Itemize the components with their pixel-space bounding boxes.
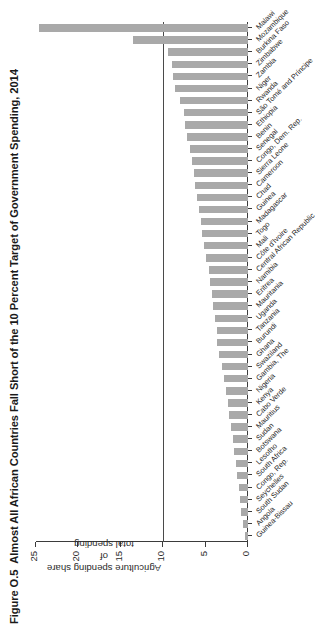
category-tick <box>248 305 252 306</box>
bar <box>229 411 248 418</box>
category-tick <box>248 366 252 367</box>
category-tick <box>248 208 252 209</box>
bar <box>168 49 248 56</box>
bar <box>175 85 248 92</box>
bar <box>206 254 248 261</box>
bar <box>239 484 248 491</box>
bar <box>215 315 248 322</box>
category-tick <box>248 148 252 149</box>
category-tick <box>248 535 252 536</box>
bar <box>237 472 248 479</box>
bar <box>233 435 248 442</box>
bar <box>173 73 248 80</box>
figure-page: Figure O.5Almost All African Countries F… <box>0 0 334 634</box>
bar <box>213 302 248 309</box>
bar <box>224 375 248 382</box>
category-tick <box>248 426 252 427</box>
category-tick <box>248 390 252 391</box>
category-tick <box>248 75 252 76</box>
bar <box>39 24 248 31</box>
category-tick <box>248 100 252 101</box>
bar <box>204 242 248 249</box>
bar <box>231 423 248 430</box>
category-tick <box>248 257 252 258</box>
category-tick <box>248 245 252 246</box>
category-tick <box>248 523 252 524</box>
value-tick-label: 0 <box>240 551 251 556</box>
bar <box>236 460 248 467</box>
category-tick <box>248 172 252 173</box>
category-tick <box>248 462 252 463</box>
category-tick <box>248 27 252 28</box>
value-axis-title-line2: total spending <box>44 538 164 550</box>
bar <box>228 399 248 406</box>
bar <box>209 266 248 273</box>
bar <box>201 218 248 225</box>
bar <box>222 363 248 370</box>
bar <box>133 36 248 43</box>
category-tick <box>248 499 252 500</box>
category-tick <box>248 317 252 318</box>
bar <box>217 327 248 334</box>
category-tick <box>248 293 252 294</box>
bar <box>199 206 248 213</box>
category-tick <box>248 63 252 64</box>
bar <box>180 97 248 104</box>
category-tick <box>248 233 252 234</box>
bar <box>217 339 248 346</box>
category-tick <box>248 221 252 222</box>
bar <box>219 351 248 358</box>
bar <box>190 145 248 152</box>
bar <box>197 194 248 201</box>
category-tick <box>248 124 252 125</box>
bar <box>240 496 248 503</box>
bar <box>195 182 248 189</box>
figure-title-text: Almost All African Countries Fall Short … <box>8 69 20 569</box>
value-axis-title: Agriculture spending share of total spen… <box>44 538 164 574</box>
bar <box>192 157 248 164</box>
category-tick <box>248 329 252 330</box>
category-tick <box>248 196 252 197</box>
category-tick <box>248 354 252 355</box>
figure-title: Figure O.5Almost All African Countries F… <box>8 24 20 624</box>
figure-number: Figure O.5 <box>8 570 20 624</box>
category-tick <box>248 487 252 488</box>
value-tick: 25 <box>35 542 36 547</box>
bar <box>185 121 248 128</box>
category-tick <box>248 51 252 52</box>
category-tick <box>248 378 252 379</box>
category-tick <box>248 511 252 512</box>
figure-container: Figure O.5Almost All African Countries F… <box>0 0 334 634</box>
category-tick <box>248 269 252 270</box>
category-tick <box>248 414 252 415</box>
category-tick <box>248 88 252 89</box>
bar <box>184 109 248 116</box>
category-tick <box>248 136 252 137</box>
target-reference-line <box>163 22 164 542</box>
category-tick <box>248 281 252 282</box>
bar <box>212 290 248 297</box>
bar <box>202 230 248 237</box>
category-tick <box>248 112 252 113</box>
value-axis-title-line1: Agriculture spending share of <box>44 550 164 574</box>
category-tick <box>248 341 252 342</box>
category-tick <box>248 475 252 476</box>
category-tick <box>248 184 252 185</box>
value-tick-label: 5 <box>198 551 209 556</box>
category-tick <box>248 450 252 451</box>
category-tick <box>248 160 252 161</box>
bar <box>172 61 248 68</box>
bar <box>194 169 248 176</box>
bar <box>187 133 248 140</box>
bar <box>234 448 248 455</box>
category-tick <box>248 438 252 439</box>
category-tick <box>248 402 252 403</box>
plot-area: 0510152025 Guinea-BissauAngolaSouth Suda… <box>36 22 248 542</box>
value-tick-label: 25 <box>28 551 39 562</box>
bar <box>241 508 248 515</box>
bar <box>226 387 248 394</box>
category-tick <box>248 39 252 40</box>
value-tick: 0 <box>247 542 248 547</box>
value-tick: 5 <box>205 542 206 547</box>
bar <box>210 278 248 285</box>
